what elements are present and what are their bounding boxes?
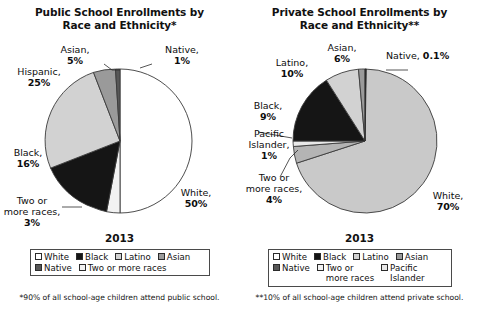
- public-chart-title-line1: Public School Enrollments by: [35, 6, 204, 18]
- public-legend-row-2: Native Two or more races: [35, 263, 206, 273]
- legend-swatch-asian-icon: [158, 253, 165, 260]
- legend-swatch-white-icon: [35, 253, 42, 260]
- legend-swatch-two-or-more-icon: [317, 264, 324, 271]
- private-label-pacific-line1: Pacific: [254, 128, 284, 139]
- public-legend-item-two-or-more: Two or more races: [79, 263, 167, 273]
- public-legend-label-asian: Asian: [167, 252, 190, 262]
- public-label-black: Black, 16%: [4, 147, 52, 169]
- private-legend-item-asian: Asian: [396, 252, 428, 262]
- private-chart-title-line2: Race and Ethnicity**: [300, 19, 419, 31]
- private-label-black-pct: 9%: [244, 111, 292, 122]
- private-label-black: Black, 9%: [244, 100, 292, 122]
- private-legend-label-pacific-line2: Islander: [390, 273, 424, 283]
- public-label-two-or-more-line1: Two or: [17, 195, 48, 206]
- public-label-asian-name: Asian,: [61, 44, 90, 55]
- legend-swatch-asian-icon: [396, 253, 403, 260]
- public-label-native-name: Native,: [165, 44, 199, 55]
- private-label-black-name: Black,: [254, 100, 283, 111]
- private-year-label: 2013: [240, 232, 479, 244]
- public-legend-item-asian: Asian: [158, 252, 190, 262]
- legend-swatch-two-or-more-icon: [79, 264, 86, 271]
- public-footnote: *90% of all school-age children attend p…: [0, 293, 239, 302]
- private-label-latino-name: Latino,: [276, 57, 308, 68]
- public-school-chart-panel: Public School Enrollments by Race and Et…: [0, 0, 239, 315]
- private-label-native: Native, 0.1%: [386, 50, 449, 61]
- public-legend-label-black: Black: [85, 252, 108, 262]
- private-legend-item-latino: Latino: [353, 252, 389, 262]
- private-legend-label-asian: Asian: [405, 252, 428, 262]
- private-legend-item-two-or-more: Two or more races: [317, 263, 374, 283]
- private-school-chart-panel: Private School Enrollments by Race and E…: [240, 0, 479, 315]
- private-label-two-or-more-line2: more races,: [242, 183, 306, 194]
- public-label-black-pct: 16%: [4, 158, 52, 169]
- public-label-hispanic-pct: 25%: [6, 77, 72, 88]
- private-label-white-pct: 70%: [422, 201, 474, 212]
- public-legend-label-native: Native: [44, 263, 72, 273]
- private-footnote: **10% of all school-age children attend …: [240, 293, 479, 302]
- public-legend-label-latino: Latino: [124, 252, 151, 262]
- public-legend-item-latino: Latino: [115, 252, 151, 262]
- public-legend-label-white: White: [44, 252, 69, 262]
- private-label-pacific-islander: Pacific Islander, 1%: [240, 128, 298, 161]
- public-label-white-name: White,: [181, 187, 212, 198]
- public-legend-item-black: Black: [76, 252, 108, 262]
- public-label-hispanic: Hispanic, 25%: [6, 66, 72, 88]
- private-legend-label-black: Black: [323, 252, 346, 262]
- private-legend-row-1: White Black Latino Asian: [273, 252, 448, 262]
- private-label-two-or-more-pct: 4%: [242, 194, 306, 205]
- private-label-latino-pct: 10%: [264, 68, 320, 79]
- private-label-white: White, 70%: [422, 190, 474, 212]
- public-label-native-pct: 1%: [155, 55, 209, 66]
- private-legend-item-native: Native: [273, 263, 310, 273]
- legend-swatch-native-icon: [273, 264, 280, 271]
- private-label-latino: Latino, 10%: [264, 57, 320, 79]
- public-label-asian-pct: 5%: [48, 55, 102, 66]
- private-legend-label-white: White: [282, 252, 307, 262]
- public-label-hispanic-name: Hispanic,: [17, 66, 61, 77]
- public-chart-title-line2: Race and Ethnicity*: [63, 19, 177, 31]
- private-label-pacific-line2: Islander,: [240, 139, 298, 150]
- private-legend-row-2: Native Two or more races Pacific Islande…: [273, 263, 448, 283]
- public-legend-row-1: White Black Latino Asian: [35, 252, 206, 262]
- legend-swatch-black-icon: [76, 253, 83, 260]
- private-label-native-name: Native,: [386, 50, 420, 61]
- public-legend: White Black Latino Asian Native Two: [30, 249, 210, 276]
- public-chart-title: Public School Enrollments by Race and Et…: [0, 6, 239, 31]
- private-legend: White Black Latino Asian Native: [268, 249, 452, 287]
- private-label-asian: Asian, 6%: [318, 42, 366, 64]
- private-label-native-pct: 0.1%: [423, 50, 449, 61]
- public-label-native: Native, 1%: [155, 44, 209, 66]
- private-legend-label-pacific-islander: Pacific Islander: [390, 263, 424, 283]
- legend-swatch-black-icon: [314, 253, 321, 260]
- public-label-two-or-more-pct: 3%: [0, 217, 64, 228]
- private-chart-title: Private School Enrollments by Race and E…: [240, 6, 479, 31]
- public-label-white-pct: 50%: [170, 198, 222, 209]
- private-label-two-or-more: Two or more races, 4%: [242, 172, 306, 205]
- private-label-asian-name: Asian,: [328, 42, 357, 53]
- public-leader-native: [140, 64, 152, 68]
- private-legend-item-black: Black: [314, 252, 346, 262]
- private-legend-item-pacific-islander: Pacific Islander: [381, 263, 424, 283]
- legend-swatch-native-icon: [35, 264, 42, 271]
- private-label-two-or-more-line1: Two or: [259, 172, 290, 183]
- private-legend-item-white: White: [273, 252, 307, 262]
- private-legend-label-two-or-more: Two or more races: [326, 263, 374, 283]
- private-label-pacific-pct: 1%: [240, 150, 298, 161]
- public-year-label: 2013: [0, 232, 239, 244]
- private-chart-title-line1: Private School Enrollments by: [272, 6, 447, 18]
- legend-swatch-white-icon: [273, 253, 280, 260]
- private-legend-label-two-or-more-line2: more races: [326, 273, 374, 283]
- private-legend-label-two-or-more-line1: Two or: [326, 263, 354, 273]
- private-legend-label-native: Native: [282, 263, 310, 273]
- public-legend-item-native: Native: [35, 263, 72, 273]
- legend-swatch-latino-icon: [353, 253, 360, 260]
- public-label-two-or-more-line2: more races,: [0, 206, 64, 217]
- public-label-asian: Asian, 5%: [48, 44, 102, 66]
- public-legend-label-two-or-more: Two or more races: [88, 263, 167, 273]
- private-label-asian-pct: 6%: [318, 53, 366, 64]
- public-label-white: White, 50%: [170, 187, 222, 209]
- public-label-two-or-more: Two or more races, 3%: [0, 195, 64, 228]
- private-legend-label-latino: Latino: [362, 252, 389, 262]
- public-legend-item-white: White: [35, 252, 69, 262]
- private-legend-label-pacific-line1: Pacific: [390, 263, 417, 273]
